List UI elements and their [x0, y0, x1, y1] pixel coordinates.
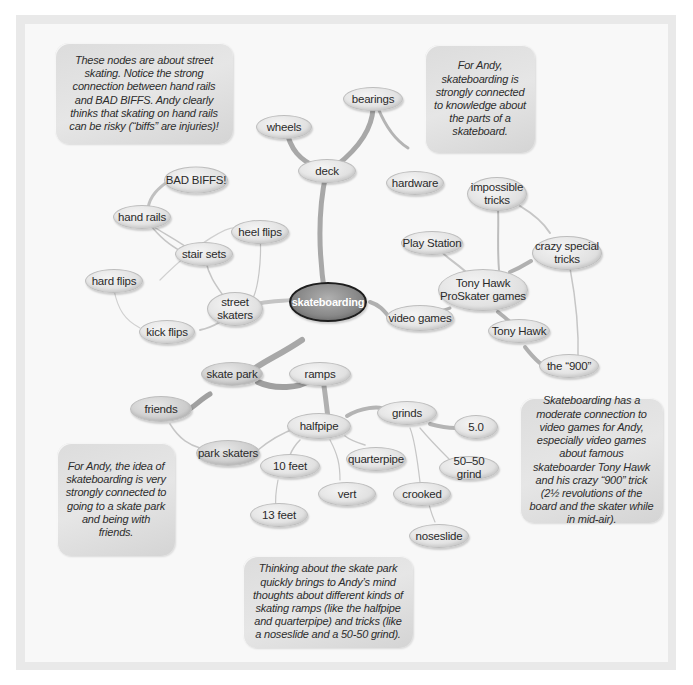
node-hardware[interactable]: hardware	[386, 171, 444, 195]
node-noseslide[interactable]: noseslide	[409, 524, 469, 548]
node-bad-biffs[interactable]: BAD BIFFS!	[164, 167, 228, 194]
node-hard-flips[interactable]: hard flips	[85, 269, 143, 293]
node-skateboarding[interactable]: skateboarding	[289, 282, 367, 322]
node-impossible-tricks[interactable]: impossible tricks	[467, 177, 527, 211]
node-street-skaters[interactable]: street skaters	[207, 292, 263, 326]
node-ramps[interactable]: ramps	[289, 362, 351, 386]
node-bearings[interactable]: bearings	[343, 87, 403, 111]
node-wheels[interactable]: wheels	[256, 115, 312, 139]
node-13-feet[interactable]: 13 feet	[250, 503, 308, 527]
node-crooked[interactable]: crooked	[393, 482, 451, 506]
node-kick-flips[interactable]: kick flips	[139, 320, 195, 344]
node-tony-hawk-games[interactable]: Tony Hawk ProSkater games	[438, 269, 528, 311]
node-crazy-special-tricks[interactable]: crazy special tricks	[532, 236, 602, 270]
node-halfpipe[interactable]: halfpipe	[287, 413, 351, 439]
note-ramps-tricks: Thinking about the skate park quickly br…	[243, 556, 413, 648]
node-10-feet[interactable]: 10 feet	[260, 454, 320, 478]
node-heel-flips[interactable]: heel flips	[231, 220, 289, 244]
node-quarterpipe[interactable]: quarterpipe	[346, 447, 406, 471]
node-video-games[interactable]: video games	[386, 305, 454, 331]
note-skateboard-parts: For Andy, skateboarding is strongly conn…	[425, 45, 535, 153]
node-the-900[interactable]: the “900”	[539, 354, 599, 378]
note-skate-park: For Andy, the idea of skateboarding is v…	[57, 443, 175, 556]
node-stair-sets[interactable]: stair sets	[175, 242, 233, 266]
node-tony-hawk[interactable]: Tony Hawk	[488, 319, 550, 343]
node-deck[interactable]: deck	[298, 159, 356, 183]
node-play-station[interactable]: Play Station	[401, 231, 463, 255]
node-vert[interactable]: vert	[318, 482, 376, 506]
node-hand-rails[interactable]: hand rails	[113, 205, 171, 229]
note-street-skating: These nodes are about street skating. No…	[55, 43, 233, 144]
node-5-0[interactable]: 5.0	[454, 415, 498, 439]
note-video-games: Skateboarding has a moderate connection …	[520, 398, 663, 523]
node-skate-park[interactable]: skate park	[201, 362, 263, 386]
node-grinds[interactable]: grinds	[377, 401, 437, 425]
node-50-50-grind[interactable]: 50–50 grind	[439, 456, 499, 480]
node-park-skaters[interactable]: park skaters	[196, 440, 260, 466]
node-friends[interactable]: friends	[130, 396, 192, 422]
